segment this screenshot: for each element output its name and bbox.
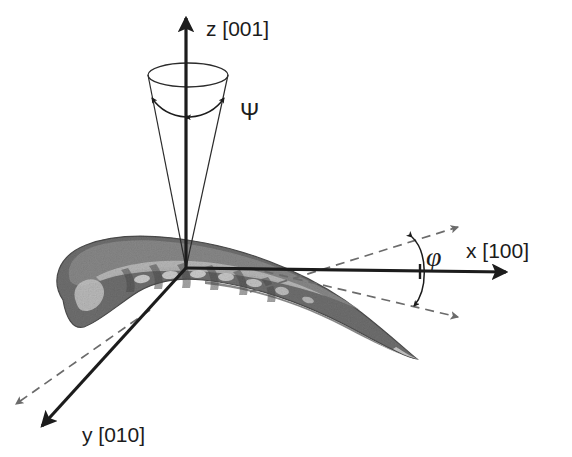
psi-angle-label: Ψ bbox=[240, 99, 259, 125]
cone-top-ellipse bbox=[148, 63, 228, 87]
turbine-blade bbox=[57, 236, 418, 359]
x-axis-label: x [100] bbox=[466, 239, 529, 262]
cone-slant-right bbox=[186, 75, 228, 268]
phi-angle-label: φ bbox=[426, 241, 442, 272]
coordinate-axes bbox=[42, 18, 506, 426]
figure-root: z [001] x [100] y [010] Ψ φ bbox=[0, 0, 572, 457]
y-axis-label: y [010] bbox=[82, 423, 145, 446]
diagram-canvas: z [001] x [100] y [010] Ψ φ bbox=[0, 0, 572, 457]
z-axis-label: z [001] bbox=[206, 17, 269, 40]
psi-arc-left bbox=[152, 98, 186, 117]
